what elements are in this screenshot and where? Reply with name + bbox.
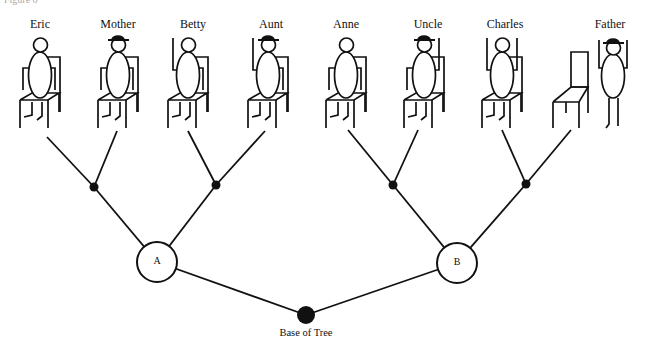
label-anne: Anne — [306, 17, 386, 32]
body — [335, 52, 358, 98]
label-betty: Betty — [153, 17, 233, 32]
tree-trunk-line — [306, 263, 457, 315]
body — [491, 52, 514, 98]
leg — [330, 102, 338, 117]
body — [107, 52, 130, 98]
people-figures — [20, 36, 627, 128]
figure-father — [553, 39, 627, 128]
leg — [265, 102, 270, 120]
head — [496, 38, 510, 52]
label-uncle: Uncle — [388, 17, 468, 32]
base-of-tree-dot — [297, 306, 315, 324]
figure-uncle — [404, 36, 444, 128]
leg — [115, 102, 120, 120]
tree-branch-line — [393, 130, 418, 185]
figure-eric — [20, 38, 60, 128]
join-dot — [90, 183, 99, 192]
arm-raised — [623, 40, 627, 68]
label-charles: Charles — [465, 17, 545, 32]
head — [182, 38, 196, 52]
head — [340, 38, 354, 52]
leg — [185, 102, 190, 120]
empty-chair-seat — [553, 87, 588, 102]
body — [257, 52, 280, 98]
leg — [421, 102, 426, 120]
label-mother: Mother — [78, 17, 158, 32]
leg — [252, 102, 260, 117]
tree-branch-line — [94, 131, 117, 187]
body — [413, 52, 436, 98]
leg — [408, 102, 416, 117]
base-of-tree-label: Base of Tree — [256, 327, 356, 338]
figure-betty — [168, 38, 208, 128]
body — [177, 52, 200, 98]
empty-chair-back — [571, 52, 588, 87]
figure-aunt — [248, 36, 288, 128]
leg — [24, 102, 32, 117]
hat-crown — [262, 36, 274, 40]
family-tree-diagram — [0, 0, 648, 349]
leg — [499, 102, 504, 120]
node-a-label: A — [147, 255, 167, 266]
figure-charles — [482, 38, 522, 128]
figure-mother — [98, 36, 138, 128]
body — [29, 52, 52, 98]
tree-branch-line — [526, 130, 571, 184]
tree-branch-line — [216, 131, 265, 185]
leg — [606, 98, 609, 128]
join-dot — [389, 181, 398, 190]
tree-branch-line — [348, 130, 393, 185]
tree-branch-line — [188, 131, 216, 185]
tree-branch-line — [502, 130, 526, 184]
figure-caption: Figure 6 — [4, 0, 38, 5]
head — [34, 38, 48, 52]
tree-branch-line — [47, 137, 94, 187]
tree-trunk-line — [157, 262, 306, 315]
node-b-label: B — [447, 256, 467, 267]
join-dot — [522, 180, 531, 189]
figure-anne — [326, 38, 366, 128]
leg — [486, 102, 494, 117]
leg — [343, 102, 348, 120]
label-father: Father — [570, 17, 648, 32]
label-eric: Eric — [0, 17, 80, 32]
tree-nodes — [90, 180, 531, 325]
join-dot — [212, 181, 221, 190]
tree-edges — [47, 130, 571, 315]
arm-raised — [599, 40, 603, 68]
hat-crown — [112, 36, 124, 40]
leg — [37, 102, 42, 120]
hat-crown — [607, 39, 619, 43]
leg — [102, 102, 110, 117]
body — [602, 54, 625, 98]
leg — [172, 102, 180, 117]
label-aunt: Aunt — [231, 17, 311, 32]
hat-crown — [418, 36, 430, 40]
